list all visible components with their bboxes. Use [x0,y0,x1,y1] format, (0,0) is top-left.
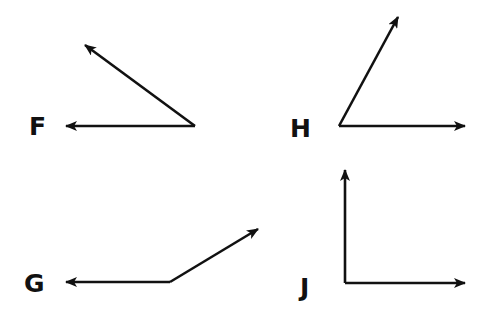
ray-h-diagonal [339,17,398,126]
ray-f-diagonal [85,45,195,126]
angle-g [66,229,258,282]
label-h: H [290,116,311,141]
ray-g-diagonal [170,229,258,282]
angles-diagram [0,0,485,316]
label-g: G [24,271,45,296]
angle-j [345,170,465,283]
label-f: F [29,114,46,139]
angle-f [66,45,195,126]
label-j: J [300,275,309,300]
angle-h [339,17,465,126]
